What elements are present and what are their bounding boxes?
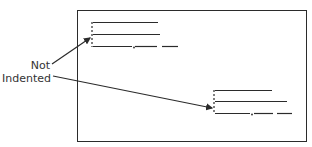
arrow-to-bottom-block [53, 76, 212, 108]
page-frame [78, 11, 307, 142]
label-line-1: Not [2, 59, 50, 72]
comma-mark [251, 114, 253, 116]
paragraph-block-bottom [214, 90, 292, 115]
comma-mark [133, 47, 135, 49]
label-line-2: Indented [2, 72, 50, 85]
arrow-to-top-block [52, 38, 90, 64]
not-indented-label: Not Indented [2, 59, 50, 85]
paragraph-block-top [92, 22, 178, 48]
